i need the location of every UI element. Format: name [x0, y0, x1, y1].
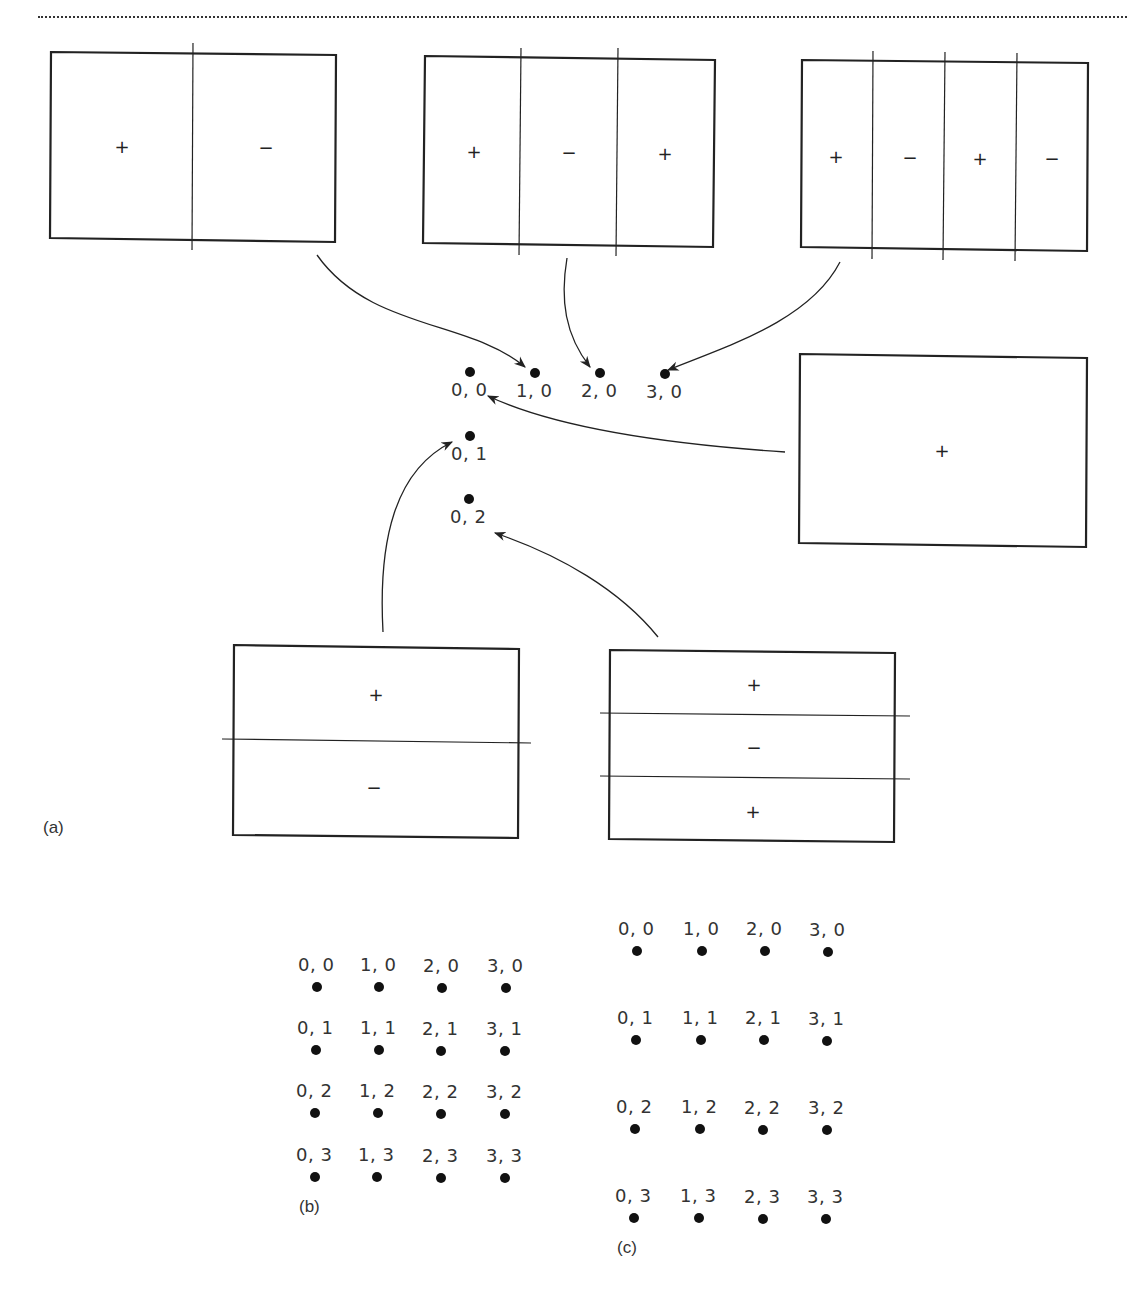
- mode-arrows: [317, 255, 840, 637]
- sign-minus: −: [1044, 148, 1059, 169]
- sign-plus: +: [934, 440, 949, 461]
- grid-point-dot: [311, 1045, 321, 1055]
- grid-point-dot: [436, 1173, 446, 1183]
- sign-minus: −: [746, 737, 761, 758]
- sign-plus: +: [657, 143, 672, 164]
- grid-point-dot: [759, 1035, 769, 1045]
- kpoint-label: 0, 2: [450, 506, 486, 527]
- grid-point-label: 0, 2: [616, 1096, 652, 1117]
- kpoint-label: 3, 0: [646, 381, 682, 402]
- grid-point-label: 1, 0: [360, 954, 396, 975]
- grid-point-dot: [501, 983, 511, 993]
- grid-point-label: 2, 2: [422, 1081, 458, 1102]
- grid-point-dot: [823, 947, 833, 957]
- grid-point-label: 0, 3: [296, 1144, 332, 1165]
- caption-a: (a): [43, 818, 64, 838]
- grid-point-label: 3, 0: [487, 955, 523, 976]
- grid-point-label: 3, 1: [486, 1018, 522, 1039]
- caption-b: (b): [299, 1197, 320, 1217]
- grid-point-dot: [697, 946, 707, 956]
- grid-point-dot: [822, 1036, 832, 1046]
- grid-point-dot: [758, 1214, 768, 1224]
- arrow-to-0-2: [495, 533, 658, 637]
- grid-point-dot: [374, 982, 384, 992]
- grid-point-label: 1, 2: [681, 1096, 717, 1117]
- grid-point-dot: [500, 1046, 510, 1056]
- grid-point-label: 1, 3: [358, 1144, 394, 1165]
- grid-point-dot: [630, 1124, 640, 1134]
- arrow-to-0-0: [488, 396, 785, 452]
- grid-point-label: 2, 0: [423, 955, 459, 976]
- kpoint-dot: [465, 431, 475, 441]
- sign-minus: −: [902, 147, 917, 168]
- grid-point-dot: [373, 1108, 383, 1118]
- caption-c: (c): [617, 1238, 637, 1258]
- grid-point-dot: [437, 983, 447, 993]
- sign-plus: +: [114, 136, 129, 157]
- grid-point-label: 1, 0: [683, 918, 719, 939]
- grid-point-label: 3, 3: [807, 1186, 843, 1207]
- grid-point-dot: [629, 1213, 639, 1223]
- kpoint-label: 1, 0: [516, 380, 552, 401]
- kpoint-dot: [660, 369, 670, 379]
- kpoint-label: 0, 1: [451, 443, 487, 464]
- sign-plus: +: [972, 148, 987, 169]
- grid-point-label: 0, 1: [297, 1017, 333, 1038]
- grid-point-label: 3, 2: [486, 1081, 522, 1102]
- grid-point-dot: [500, 1109, 510, 1119]
- grid-point-dot: [310, 1172, 320, 1182]
- grid-point-label: 1, 3: [680, 1185, 716, 1206]
- grid-point-dot: [696, 1035, 706, 1045]
- mode-box-1-0: [50, 43, 336, 250]
- grid-point-label: 0, 1: [617, 1007, 653, 1028]
- kpoint-label: 2, 0: [581, 380, 617, 401]
- figure-line-art: [0, 0, 1127, 1307]
- grid-point-dot: [310, 1108, 320, 1118]
- sign-minus: −: [366, 777, 381, 798]
- sign-minus: −: [258, 137, 273, 158]
- grid-point-label: 2, 3: [422, 1145, 458, 1166]
- sign-plus: +: [368, 684, 383, 705]
- sign-plus: +: [466, 141, 481, 162]
- grid-point-label: 2, 2: [744, 1097, 780, 1118]
- arrow-to-0-1: [382, 442, 452, 632]
- grid-point-label: 1, 2: [359, 1080, 395, 1101]
- grid-point-label: 2, 0: [746, 918, 782, 939]
- kpoint-dot: [595, 368, 605, 378]
- grid-point-label: 0, 3: [615, 1185, 651, 1206]
- grid-point-label: 3, 1: [808, 1008, 844, 1029]
- grid-point-label: 2, 1: [745, 1007, 781, 1028]
- grid-point-label: 0, 2: [296, 1080, 332, 1101]
- sign-plus: +: [828, 146, 843, 167]
- sign-minus: −: [561, 142, 576, 163]
- kpoint-dot: [465, 367, 475, 377]
- arrow-to-1-0: [317, 255, 525, 367]
- sign-plus: +: [745, 801, 760, 822]
- grid-point-dot: [372, 1172, 382, 1182]
- grid-point-dot: [374, 1045, 384, 1055]
- grid-point-dot: [500, 1173, 510, 1183]
- sign-plus: +: [746, 674, 761, 695]
- grid-point-dot: [436, 1109, 446, 1119]
- grid-point-label: 2, 1: [422, 1018, 458, 1039]
- kpoint-dot: [530, 368, 540, 378]
- grid-point-dot: [631, 1035, 641, 1045]
- grid-point-label: 0, 0: [618, 918, 654, 939]
- grid-point-dot: [695, 1124, 705, 1134]
- grid-point-dot: [694, 1213, 704, 1223]
- grid-point-dot: [760, 946, 770, 956]
- grid-point-label: 3, 3: [486, 1145, 522, 1166]
- grid-point-dot: [312, 982, 322, 992]
- kpoint-dot: [464, 494, 474, 504]
- arrow-to-2-0: [564, 258, 590, 367]
- grid-point-label: 3, 2: [808, 1097, 844, 1118]
- grid-point-label: 1, 1: [360, 1017, 396, 1038]
- grid-point-dot: [758, 1125, 768, 1135]
- grid-point-dot: [821, 1214, 831, 1224]
- kpoint-label: 0, 0: [451, 379, 487, 400]
- grid-point-dot: [632, 946, 642, 956]
- grid-point-label: 0, 0: [298, 954, 334, 975]
- grid-point-label: 3, 0: [809, 919, 845, 940]
- mode-box-0-1: [222, 645, 531, 838]
- grid-point-label: 1, 1: [682, 1007, 718, 1028]
